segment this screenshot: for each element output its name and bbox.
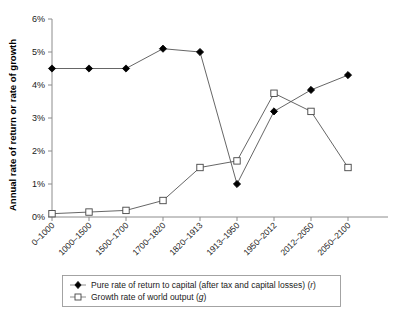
- y-tick-label: 6%: [32, 14, 45, 24]
- y-tick-label: 0%: [32, 212, 45, 222]
- y-tick-label: 2%: [32, 146, 45, 156]
- data-point-growth: [271, 90, 277, 96]
- series-line-growth: [52, 93, 348, 213]
- data-point-return: [159, 45, 166, 52]
- data-point-growth: [308, 108, 314, 114]
- data-point-return: [344, 72, 351, 79]
- data-point-growth: [160, 197, 166, 203]
- chart-legend: Pure rate of return to capital (after ta…: [63, 276, 341, 307]
- legend-label-growth-main: Growth rate of world output (: [91, 292, 199, 302]
- y-tick-label: 4%: [32, 80, 45, 90]
- data-point-growth: [49, 211, 55, 217]
- x-tick-label: 2050–2100: [315, 220, 352, 257]
- data-point-return: [270, 108, 277, 115]
- x-tick-label: 1913–1950: [204, 220, 241, 257]
- series-line-return: [52, 49, 348, 184]
- data-point-return: [122, 65, 129, 72]
- chart-canvas: Annual rate of return or rate of growth …: [0, 0, 404, 320]
- x-axis-labels: 0–10001000–15001500–17001700–18201820–19…: [29, 220, 352, 257]
- x-tick-label: 1000–1500: [56, 220, 93, 257]
- y-axis-ticks: 0%1%2%3%4%5%6%: [32, 14, 52, 222]
- data-point-growth: [123, 207, 129, 213]
- data-point-growth: [197, 164, 203, 170]
- data-point-growth: [234, 158, 240, 164]
- x-tick-label: 1820–1913: [167, 220, 204, 257]
- x-tick-label: 0–1000: [29, 220, 56, 247]
- y-tick-label: 1%: [32, 179, 45, 189]
- data-point-growth: [345, 164, 351, 170]
- x-tick-label: 1500–1700: [93, 220, 130, 257]
- chart-figure: Annual rate of return or rate of growth …: [0, 0, 404, 320]
- y-tick-label: 3%: [32, 113, 45, 123]
- legend-label-return: Pure rate of return to capital (after ta…: [91, 280, 316, 290]
- y-tick-label: 5%: [32, 47, 45, 57]
- data-point-growth: [86, 209, 92, 215]
- data-point-return: [307, 86, 314, 93]
- legend-label-growth: Growth rate of world output (g): [91, 292, 206, 302]
- data-point-return: [48, 65, 55, 72]
- x-axis-ticks: [52, 217, 348, 221]
- x-tick-label: 2012–2050: [278, 220, 315, 257]
- legend-label-growth-tail: ): [203, 292, 206, 302]
- data-point-return: [85, 65, 92, 72]
- y-axis-title: Annual rate of return or rate of growth: [7, 39, 18, 211]
- x-tick-label: 1950–2012: [241, 220, 278, 257]
- data-point-return: [196, 48, 203, 55]
- legend-label-return-tail: ): [313, 280, 316, 290]
- data-point-return: [233, 180, 240, 187]
- legend-label-return-main: Pure rate of return to capital (after ta…: [91, 280, 310, 290]
- x-tick-label: 1700–1820: [130, 220, 167, 257]
